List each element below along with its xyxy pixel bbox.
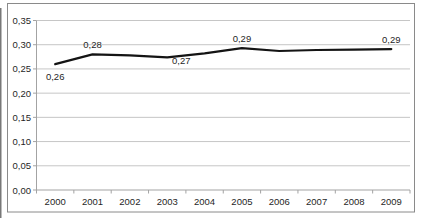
y-axis-tick-label: 0,10	[13, 136, 32, 147]
data-point-label: 0,28	[83, 39, 102, 50]
x-axis-tick-label: 2000	[45, 196, 66, 207]
y-axis-tick-label: 0,35	[13, 15, 32, 26]
x-axis-tick-label: 2005	[231, 196, 252, 207]
x-axis-tick-label: 2004	[194, 196, 215, 207]
figure-canvas: 0,000,050,100,150,200,250,300,3520002001…	[0, 0, 421, 218]
y-axis-tick-label: 0,20	[13, 88, 32, 99]
x-axis-tick-label: 2001	[82, 196, 103, 207]
y-axis-tick-label: 0,00	[13, 185, 32, 196]
x-axis-tick-label: 2008	[343, 196, 364, 207]
x-axis-tick-label: 2009	[381, 196, 402, 207]
line-chart: 0,000,050,100,150,200,250,300,3520002001…	[0, 0, 421, 218]
data-point-label: 0,26	[46, 71, 65, 82]
x-axis-tick-label: 2006	[269, 196, 290, 207]
y-axis-tick-label: 0,30	[13, 39, 32, 50]
x-axis-tick-label: 2002	[119, 196, 140, 207]
x-axis-tick-label: 2003	[157, 196, 178, 207]
chart-border	[8, 4, 415, 213]
x-axis-tick-label: 2007	[306, 196, 327, 207]
y-axis-tick-label: 0,25	[13, 63, 32, 74]
y-axis-tick-label: 0,15	[13, 112, 32, 123]
data-point-label: 0,29	[233, 33, 252, 44]
data-point-label: 0,27	[172, 55, 191, 66]
data-point-label: 0,29	[382, 34, 401, 45]
y-axis-tick-label: 0,05	[13, 160, 32, 171]
